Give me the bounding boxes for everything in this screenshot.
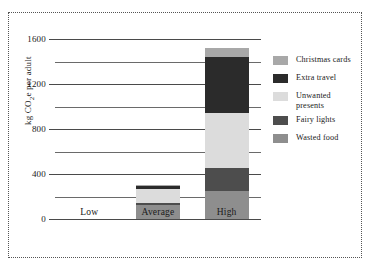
legend-label: Extra travel (296, 73, 336, 83)
bar-column-low (67, 39, 111, 219)
bar-segment (205, 57, 249, 113)
y-axis-tick-label: 1200 (27, 79, 46, 89)
bar-segment (136, 185, 180, 186)
bar-segment (136, 186, 180, 189)
legend-label: Christmas cards (296, 55, 351, 65)
legend-item: Fairy lights (273, 115, 335, 125)
bar-segment (205, 168, 249, 192)
bar-segment (136, 189, 180, 203)
y-axis-tick (49, 84, 56, 85)
legend-swatch (273, 116, 288, 125)
legend-item: Wasted food (273, 133, 339, 143)
y-axis-tick-label: 400 (32, 169, 46, 179)
legend-swatch (273, 56, 288, 65)
y-axis-tick (49, 174, 56, 175)
legend-label: Fairy lights (296, 115, 335, 125)
y-axis-tick-label: 1600 (27, 34, 46, 44)
bar-column-high (205, 39, 249, 219)
y-axis-title-prefix: kg CO (23, 100, 33, 125)
y-axis-tick (49, 219, 56, 220)
legend-label: Wasted food (296, 133, 339, 143)
plot-area: 040080012001600 (55, 39, 261, 219)
y-axis-tick-label: 0 (41, 214, 46, 224)
x-axis-label-high: High (192, 207, 262, 217)
y-axis-tick-label: 800 (32, 124, 46, 134)
x-axis-label-average: Average (123, 207, 193, 217)
legend-swatch (273, 74, 288, 83)
bar-segment (136, 203, 180, 205)
x-axis-label-low: Low (54, 207, 124, 217)
y-axis-title-suffix: e per adult (23, 56, 33, 96)
bar-column-average (136, 39, 180, 219)
legend-item: Unwanted presents (273, 91, 331, 110)
bar-segment (205, 48, 249, 57)
bar-segment (205, 113, 249, 168)
gridline-major (55, 219, 261, 220)
y-axis-tick (49, 39, 56, 40)
y-axis-tick (49, 129, 56, 130)
legend-item: Christmas cards (273, 55, 351, 65)
legend-swatch (273, 92, 288, 101)
y-axis-title: kg CO2e per adult (23, 56, 36, 125)
legend-item: Extra travel (273, 73, 336, 83)
legend-label: Unwanted presents (296, 91, 331, 110)
chart-frame: kg CO2e per adult 040080012001600 LowAve… (8, 12, 362, 258)
legend-swatch (273, 134, 288, 143)
y-axis-title-subscript: 2 (28, 97, 36, 101)
